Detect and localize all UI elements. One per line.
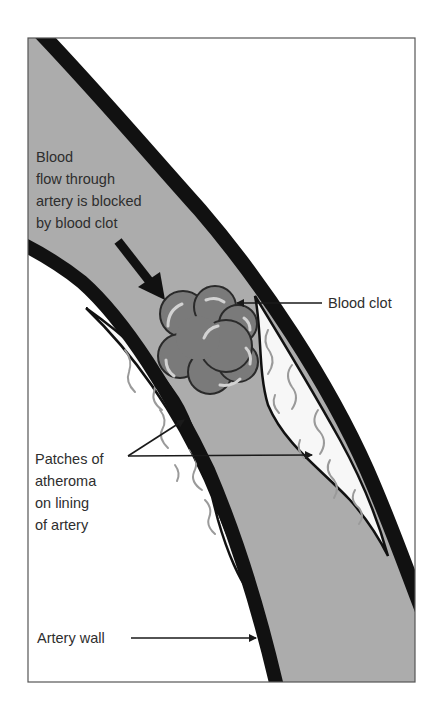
label-line: Blood clot: [328, 292, 392, 314]
label-line: Artery wall: [37, 627, 105, 649]
label-artery-wall: Artery wall: [37, 627, 105, 649]
label-line: artery is blocked: [36, 190, 142, 212]
label-line: by blood clot: [36, 212, 142, 234]
label-line: Patches of: [35, 448, 104, 470]
label-line: on lining: [35, 492, 104, 514]
label-blood-flow: Blood flow through artery is blocked by …: [36, 146, 142, 234]
atheroma-pointer-right: [128, 455, 312, 456]
label-line: Blood: [36, 146, 142, 168]
artery-diagram: [0, 0, 440, 718]
label-atheroma: Patches of atheroma on lining of artery: [35, 448, 104, 536]
label-line: flow through: [36, 168, 142, 190]
label-line: of artery: [35, 514, 104, 536]
label-blood-clot: Blood clot: [328, 292, 392, 314]
label-line: atheroma: [35, 470, 104, 492]
